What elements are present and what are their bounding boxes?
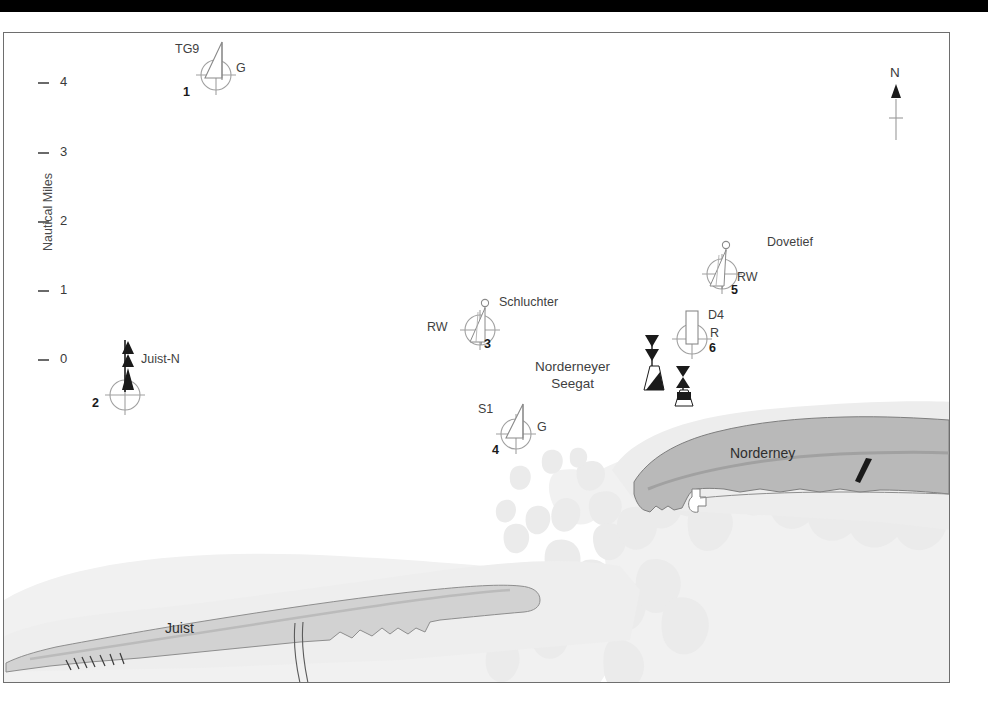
island-label-juist: Juist [165,620,194,636]
tick-dash [38,221,49,223]
north-arrow [889,84,903,140]
buoy-label-d4: D4 [708,308,724,322]
buoy-tg9[interactable] [196,42,236,95]
buoy-color-schluchter: RW [427,320,448,334]
buoy-number-d4: 6 [709,341,716,355]
north-arrow-label: N [890,65,900,80]
buoy-label-tg9: TG9 [175,42,199,56]
tick-dash [38,152,49,154]
tick-dash [38,359,49,361]
y-tick-4: 4 [38,76,90,90]
waterway-label-line2: Seegat [535,375,610,392]
buoy-color-tg9: G [236,61,246,75]
buoy-number-tg9: 1 [183,85,190,99]
buoy-number-juist-n: 2 [92,396,99,410]
waterway-label-norderneyer-seegat: Norderneyer Seegat [535,358,610,392]
buoy-number-dovetief: 5 [731,283,738,297]
buoy-color-dovetief: RW [737,270,758,284]
south-cardinal-mark[interactable] [644,335,664,390]
y-axis-title: Nautical Miles [41,142,55,282]
east-cardinal-mark[interactable] [675,366,693,406]
buoy-label-juist-n: Juist-N [141,352,180,366]
tick-dash [38,82,49,84]
island-label-norderney: Norderney [730,445,795,461]
buoy-d4[interactable] [672,311,712,359]
tick-label: 3 [60,144,67,159]
buoy-color-s1: G [537,420,547,434]
y-tick-2: 2 [38,215,90,229]
waterway-label-line1: Norderneyer [535,358,610,375]
tick-dash [38,290,49,292]
buoy-number-s1: 4 [492,443,499,457]
y-tick-1: 1 [38,284,90,298]
buoy-color-d4: R [710,326,719,340]
buoy-label-s1: S1 [478,402,493,416]
buoy-number-schluchter: 3 [484,337,491,351]
y-tick-3: 3 [38,146,90,160]
tick-label: 1 [60,282,67,297]
tick-label: 2 [60,213,67,228]
tick-label: 0 [60,351,67,366]
buoy-s1[interactable] [496,404,536,454]
y-tick-0: 0 [38,353,90,367]
buoy-label-dovetief: Dovetief [767,235,813,249]
tick-label: 4 [60,74,67,89]
buoy-schluchter[interactable] [460,299,500,350]
buoy-label-schluchter: Schluchter [499,295,558,309]
buoy-juist-n[interactable] [105,340,145,415]
